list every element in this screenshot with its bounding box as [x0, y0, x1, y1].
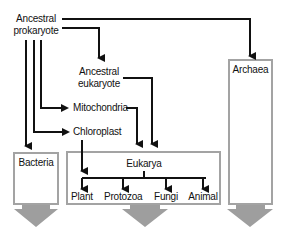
bacteria-label: Bacteria — [13, 157, 59, 169]
eukarya-down-arrow — [122, 205, 168, 227]
archaea-label: Archaea — [228, 64, 273, 76]
chloroplast-label: Chloroplast — [73, 126, 121, 138]
arrow-to-mitochondria — [41, 40, 67, 108]
arrow-to-chloroplast — [34, 40, 68, 132]
arrow-to-archaea — [62, 19, 250, 56]
arrow-to-ancestral-eukaryote — [62, 28, 99, 58]
archaea-down-arrow — [227, 205, 273, 227]
phylogeny-diagram: Ancestral prokaryote Ancestral eukaryote… — [0, 0, 287, 238]
eukarya-label: Eukarya — [124, 158, 164, 170]
kingdom-protozoa: Protozoa — [104, 191, 142, 203]
bacteria-down-arrow — [14, 205, 58, 227]
kingdom-plant: Plant — [70, 191, 94, 203]
ancestral-eukaryote-label: Ancestral eukaryote — [76, 66, 122, 90]
kingdom-fungi: Fungi — [153, 191, 179, 203]
ancestral-prokaryote-label: Ancestral prokaryote — [10, 13, 62, 37]
kingdom-animal: Animal — [187, 191, 219, 203]
mitochondria-label: Mitochondria — [73, 102, 128, 114]
